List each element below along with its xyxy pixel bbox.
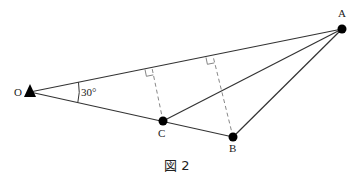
segment-OA [30, 29, 342, 92]
point-C [159, 117, 168, 126]
segment-CA [163, 29, 342, 121]
geometry-figure: O A C B 30° 図 2 [0, 0, 361, 178]
label-A: A [338, 7, 346, 19]
segment-BA [233, 29, 342, 137]
label-C: C [158, 127, 165, 139]
label-B: B [229, 142, 236, 154]
point-B [229, 133, 238, 142]
figure-caption: 図 2 [164, 158, 189, 173]
right-angle-mark-B [206, 58, 214, 65]
angle-arc-O [78, 82, 79, 102]
segment-OB [30, 92, 233, 137]
label-O: O [14, 86, 22, 98]
perpendicular-from-C [152, 68, 163, 121]
perpendicular-from-B [213, 56, 233, 137]
point-A [338, 25, 347, 34]
angle-label: 30° [81, 86, 96, 98]
observer-triangle-icon [24, 84, 36, 97]
